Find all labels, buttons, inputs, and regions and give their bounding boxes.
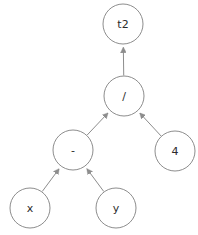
edge-sub-to-div bbox=[87, 113, 108, 135]
edge-layer bbox=[42, 48, 161, 192]
expression-dag-svg: t2/-4xy bbox=[0, 0, 198, 235]
node-t2[interactable]: t2 bbox=[103, 4, 143, 44]
node-div[interactable]: / bbox=[104, 76, 144, 116]
node-layer: t2/-4xy bbox=[10, 4, 195, 228]
node-label-div: / bbox=[122, 90, 126, 103]
node-label-four: 4 bbox=[172, 145, 179, 158]
edge-four-to-div bbox=[140, 113, 161, 136]
expression-dag-canvas: t2/-4xy bbox=[0, 0, 198, 235]
node-label-y: y bbox=[113, 202, 120, 215]
node-x[interactable]: x bbox=[10, 188, 50, 228]
edge-y-to-sub bbox=[87, 169, 104, 192]
node-label-t2: t2 bbox=[117, 18, 128, 31]
node-y[interactable]: y bbox=[96, 188, 136, 228]
node-label-x: x bbox=[27, 202, 34, 215]
node-sub[interactable]: - bbox=[53, 130, 93, 170]
node-label-sub: - bbox=[71, 144, 75, 157]
edge-x-to-sub bbox=[42, 169, 59, 192]
node-four[interactable]: 4 bbox=[155, 131, 195, 171]
